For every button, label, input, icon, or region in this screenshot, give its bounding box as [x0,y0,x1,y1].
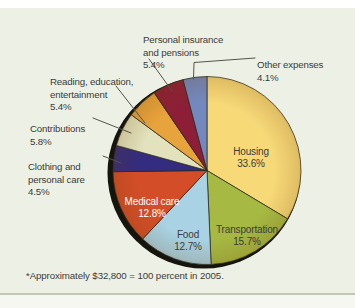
label-transportation-text: Transportation [216,224,278,235]
label-transportation-pct: 15.7% [216,236,278,249]
label-other-expenses-text: Other expenses [257,59,323,70]
label-housing: Housing 33.6% [233,133,269,183]
label-medical-care-pct: 12.8% [125,208,180,221]
label-medical-care: Medical care 12.8% [125,183,180,233]
label-personal-insurance-pct: 5.4% [143,59,223,72]
label-housing-text: Housing [233,146,269,157]
label-transportation: Transportation 15.7% [216,211,278,261]
label-personal-insurance-text: Personal insurance and pensions [143,34,223,58]
label-housing-pct: 33.6% [233,158,269,171]
label-other-expenses-pct: 4.1% [257,72,323,85]
label-other-expenses: Other expenses 4.1% [257,46,323,97]
label-food-pct: 12.7% [174,241,202,254]
label-contributions-text: Contributions [30,123,85,134]
label-contributions-pct: 5.8% [30,136,85,149]
label-personal-insurance: Personal insurance and pensions 5.4% [143,21,223,85]
label-clothing: Clothing and personal care 4.5% [28,148,85,212]
label-food-text: Food [177,229,199,240]
label-clothing-text: Clothing and personal care [28,161,85,185]
label-reading-education-text: Reading, education, entertainment [50,76,133,100]
label-medical-care-text: Medical care [125,196,180,207]
footnote: *Approximately $32,800 = 100 percent in … [26,270,224,281]
label-clothing-pct: 4.5% [28,186,85,199]
